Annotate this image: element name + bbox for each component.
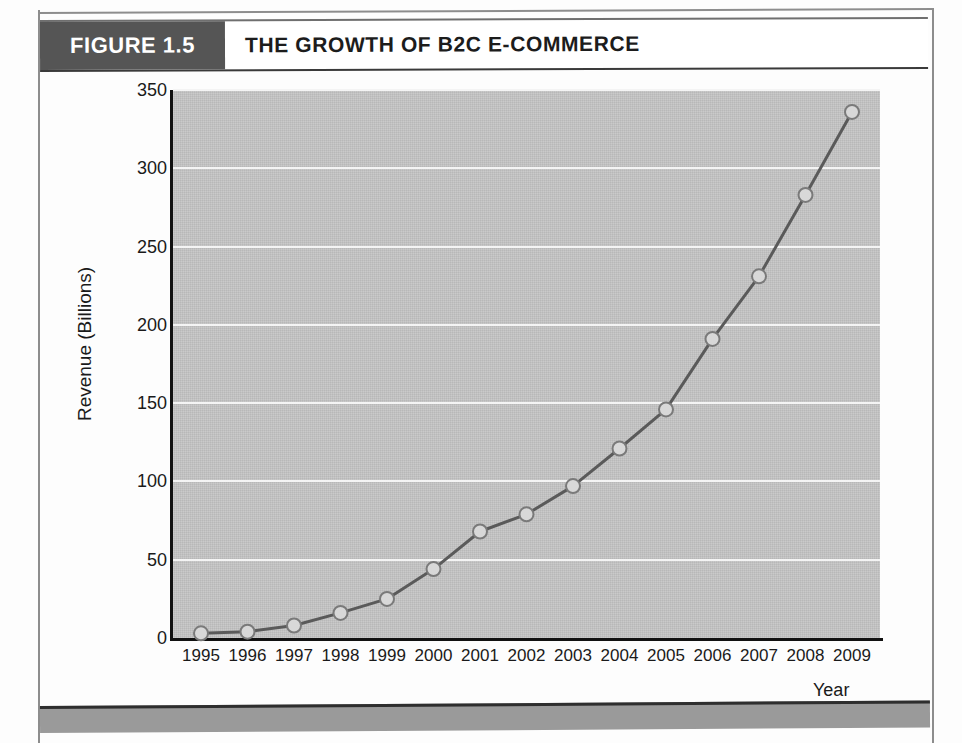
plot-wrapper: 050100150200250300350 199519961997199819… bbox=[173, 90, 880, 638]
chart-container: Revenue (Billions) 050100150200250300350… bbox=[40, 78, 930, 693]
x-axis-tick-label: 2001 bbox=[461, 646, 499, 666]
x-axis-tick-label: 2008 bbox=[787, 646, 825, 666]
page-border-right bbox=[932, 8, 934, 743]
x-axis-tick-label: 1995 bbox=[182, 646, 220, 666]
x-axis-title: Year bbox=[813, 680, 849, 701]
data-point-marker bbox=[613, 442, 627, 456]
data-point-marker bbox=[752, 269, 766, 283]
data-point-marker bbox=[241, 625, 255, 639]
data-point-marker bbox=[799, 188, 813, 202]
data-point-marker bbox=[334, 606, 348, 620]
y-axis-tick-label: 100 bbox=[97, 471, 167, 492]
x-axis-tick-label: 1996 bbox=[229, 646, 267, 666]
figure-header: FIGURE 1.5 THE GROWTH OF B2C E-COMMERCE bbox=[40, 17, 928, 72]
data-point-marker bbox=[659, 402, 673, 416]
x-axis-tick-label: 2005 bbox=[647, 646, 685, 666]
y-axis-tick-label: 50 bbox=[97, 549, 167, 570]
x-axis-line bbox=[170, 638, 883, 641]
data-point-marker bbox=[520, 507, 534, 521]
data-point-marker bbox=[194, 626, 208, 640]
x-axis-tick-label: 1998 bbox=[322, 646, 360, 666]
x-axis-tick-label: 2006 bbox=[694, 646, 732, 666]
revenue-markers-group bbox=[194, 105, 859, 640]
y-axis-tick-label: 250 bbox=[97, 236, 167, 257]
data-point-marker bbox=[380, 592, 394, 606]
line-series-svg bbox=[173, 90, 880, 638]
figure-title: THE GROWTH OF B2C E-COMMERCE bbox=[245, 20, 640, 69]
y-axis-title: Revenue (Billions) bbox=[74, 144, 96, 544]
figure-number-label: FIGURE 1.5 bbox=[70, 32, 195, 58]
data-point-marker bbox=[845, 105, 859, 119]
x-axis-tick-label: 2004 bbox=[601, 646, 639, 666]
x-axis-tick-label: 2003 bbox=[554, 646, 592, 666]
data-point-marker bbox=[427, 562, 441, 576]
y-axis-tick-label: 200 bbox=[97, 314, 167, 335]
data-point-marker bbox=[706, 332, 720, 346]
x-axis-tick-label: 2009 bbox=[833, 646, 871, 666]
x-axis-tick-label: 2007 bbox=[740, 646, 778, 666]
x-axis-tick-label: 1999 bbox=[368, 646, 406, 666]
x-axis-tick-label: 2000 bbox=[415, 646, 453, 666]
y-axis-tick-label: 0 bbox=[97, 628, 167, 649]
x-axis-tick-label: 1997 bbox=[275, 646, 313, 666]
page-border-top bbox=[38, 8, 934, 14]
revenue-line bbox=[201, 112, 852, 633]
figure-footer-bar bbox=[40, 701, 930, 733]
figure-page: FIGURE 1.5 THE GROWTH OF B2C E-COMMERCE … bbox=[0, 0, 962, 743]
figure-number-badge: FIGURE 1.5 bbox=[40, 21, 225, 70]
data-point-marker bbox=[566, 479, 580, 493]
y-axis-tick-label: 300 bbox=[97, 158, 167, 179]
y-axis-tick-label: 150 bbox=[97, 393, 167, 414]
data-point-marker bbox=[287, 619, 301, 633]
data-point-marker bbox=[473, 525, 487, 539]
y-axis-tick-label: 350 bbox=[97, 80, 167, 101]
x-axis-tick-label: 2002 bbox=[508, 646, 546, 666]
